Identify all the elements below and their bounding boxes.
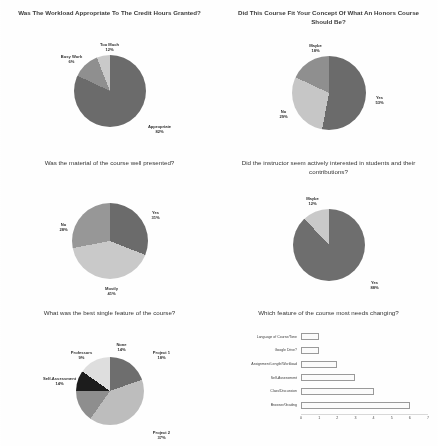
slice-label-mostly: Mostly 41% xyxy=(105,286,118,297)
pie-chart-best-feature xyxy=(76,357,144,425)
pie-chart-instructor-interest xyxy=(293,209,365,281)
chart-area-instructor-interest: Maybe 12% Yes 88% xyxy=(219,176,438,298)
slice-label-none: None 14% xyxy=(116,342,126,353)
slice-label-project-2: Project 2 37% xyxy=(153,430,170,441)
bar-chart-needs-changing: Language of Course/ToneGoogle Drive?Assi… xyxy=(225,330,432,430)
panel-material-presented: Was the material of the course well pres… xyxy=(0,150,219,300)
panel-title-instructor-interest: Did the instructor seem actively interes… xyxy=(227,159,430,177)
bar-fill xyxy=(301,347,319,354)
axis-tick: 6 xyxy=(409,416,411,420)
panel-best-feature: What was the best single feature of the … xyxy=(0,300,219,446)
bar-fill xyxy=(301,388,374,395)
pie-wrap-best-feature: None 14% Professors 9% Self-Assessment 1… xyxy=(76,357,144,425)
bar-row: Google Drive? xyxy=(225,346,428,355)
bar-track xyxy=(301,374,428,381)
slice-label-yes: Yes 31% xyxy=(151,210,159,221)
slice-label-no: No 29% xyxy=(279,109,287,120)
panel-workload: Was The Workload Appropriate To The Cred… xyxy=(0,0,219,150)
bar-rows: Language of Course/ToneGoogle Drive?Assi… xyxy=(225,330,428,412)
axis-tick: 2 xyxy=(336,416,338,420)
pie-chart-workload xyxy=(74,55,146,127)
axis-tick: 1 xyxy=(318,416,320,420)
pie-wrap-material-presented: Yes 31% No 28% Mostly 41% xyxy=(72,203,148,279)
bar-row: Assignment Length/Workload xyxy=(225,360,428,369)
bar-category-label: Language of Course/Tone xyxy=(225,335,301,339)
panel-title-best-feature: What was the best single feature of the … xyxy=(8,309,211,318)
slice-label-maybe: Maybe 18% xyxy=(309,43,322,54)
slice-label-busy-work: Busy Work 6% xyxy=(61,54,82,65)
slice-label-professors: Professors 9% xyxy=(71,350,92,361)
bar-row: Self-Assessment xyxy=(225,373,428,382)
slice-label-too-much: Too Much 12% xyxy=(100,42,119,53)
survey-figure-sheet: Was The Workload Appropriate To The Cred… xyxy=(0,0,438,446)
bar-x-axis: 01234567 xyxy=(301,414,428,430)
chart-area-best-feature: None 14% Professors 9% Self-Assessment 1… xyxy=(0,326,219,444)
panel-title-needs-changing: Which feature of the course most needs c… xyxy=(227,309,430,318)
chart-area-material-presented: Yes 31% No 28% Mostly 41% xyxy=(0,176,219,298)
axis-tick: 0 xyxy=(300,416,302,420)
panel-title-honors-concept: Did This Course Fit Your Concept Of What… xyxy=(227,9,430,27)
axis-tick: 7 xyxy=(427,416,429,420)
slice-label-yes: Yes 88% xyxy=(370,280,378,291)
pie-wrap-instructor-interest: Maybe 12% Yes 88% xyxy=(293,209,365,281)
axis-tick: 3 xyxy=(354,416,356,420)
slice-label-appropriate: Appropriate 82% xyxy=(148,124,171,135)
bar-row: Browser/Grading xyxy=(225,401,428,410)
panel-title-material-presented: Was the material of the course well pres… xyxy=(8,159,211,168)
axis-tick: 4 xyxy=(373,416,375,420)
chart-area-workload: Too Much 12% Busy Work 6% Appropriate 82… xyxy=(0,26,219,148)
chart-area-honors-concept: Maybe 18% Yes 53% No 29% xyxy=(219,26,438,148)
bar-fill xyxy=(301,402,410,409)
bar-track xyxy=(301,347,428,354)
chart-grid: Was The Workload Appropriate To The Cred… xyxy=(0,0,438,446)
bar-fill xyxy=(301,374,355,381)
axis-tick: 5 xyxy=(391,416,393,420)
slice-label-self-assessment: Self-Assessment 14% xyxy=(43,376,76,387)
bar-row: Language of Course/Tone xyxy=(225,332,428,341)
bar-category-label: Self-Assessment xyxy=(225,376,301,380)
pie-wrap-honors-concept: Maybe 18% Yes 53% No 29% xyxy=(292,56,366,130)
pie-wrap-workload: Too Much 12% Busy Work 6% Appropriate 82… xyxy=(74,55,146,127)
bar-fill xyxy=(301,333,319,340)
slice-label-yes: Yes 53% xyxy=(375,95,383,106)
bar-track xyxy=(301,388,428,395)
slice-label-maybe: Maybe 12% xyxy=(306,196,319,207)
slice-label-no: No 28% xyxy=(59,222,67,233)
slice-label-project-1: Project 1 18% xyxy=(153,350,170,361)
panel-instructor-interest: Did the instructor seem actively interes… xyxy=(219,150,438,300)
bar-track xyxy=(301,333,428,340)
axis-line xyxy=(301,414,428,415)
pie-chart-material-presented xyxy=(72,203,148,279)
bar-category-label: Google Drive? xyxy=(225,348,301,352)
bar-category-label: Assignment Length/Workload xyxy=(225,362,301,366)
bar-category-label: Browser/Grading xyxy=(225,403,301,407)
panel-title-workload: Was The Workload Appropriate To The Cred… xyxy=(8,9,211,18)
bar-track xyxy=(301,361,428,368)
panel-needs-changing: Which feature of the course most needs c… xyxy=(219,300,438,446)
pie-chart-honors-concept xyxy=(292,56,366,130)
bar-track xyxy=(301,402,428,409)
bar-fill xyxy=(301,361,337,368)
bar-category-label: Class/Discussion xyxy=(225,389,301,393)
bar-row: Class/Discussion xyxy=(225,387,428,396)
panel-honors-concept: Did This Course Fit Your Concept Of What… xyxy=(219,0,438,150)
